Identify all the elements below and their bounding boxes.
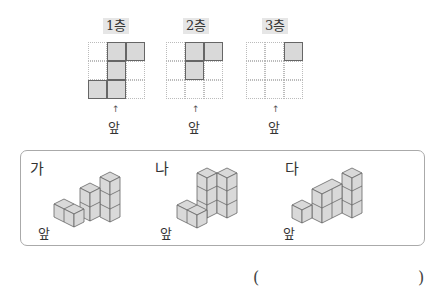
grid-cell xyxy=(88,61,107,80)
grid-cell xyxy=(88,42,107,61)
layer-title-2: 2층 xyxy=(183,18,209,34)
layer-title-1: 1층 xyxy=(103,18,129,34)
filled-cell xyxy=(107,80,126,99)
answer-close-paren: ) xyxy=(418,268,424,287)
cube-stack-ga xyxy=(50,165,130,235)
answer-open-paren: ( xyxy=(253,268,259,287)
grid-cell xyxy=(246,42,265,61)
grid-cell xyxy=(126,80,145,99)
grid-cell xyxy=(204,80,223,99)
front-label: 앞 xyxy=(108,117,120,136)
grid-cell xyxy=(246,61,265,80)
grid-cell xyxy=(265,42,284,61)
grid-cell xyxy=(265,61,284,80)
layer-grid-1 xyxy=(88,42,145,99)
arrow-up-icon: ↑ xyxy=(192,104,200,114)
grid-cell xyxy=(284,61,303,80)
grid-cell xyxy=(185,80,204,99)
filled-cell xyxy=(126,42,145,61)
grid-cell xyxy=(204,61,223,80)
filled-cell xyxy=(185,61,204,80)
layer-title-3: 3층 xyxy=(262,18,288,34)
grid-cell xyxy=(246,80,265,99)
layer-grid-2 xyxy=(166,42,223,99)
front-label: 앞 xyxy=(160,223,172,242)
front-label: 앞 xyxy=(268,117,280,136)
cube-stack-da xyxy=(290,165,370,235)
filled-cell xyxy=(88,80,107,99)
front-label: 앞 xyxy=(188,117,200,136)
layer-grid-3 xyxy=(246,42,303,99)
filled-cell xyxy=(185,42,204,61)
grid-cell xyxy=(126,61,145,80)
filled-cell xyxy=(107,61,126,80)
front-label: 앞 xyxy=(38,223,50,242)
answer-field[interactable] xyxy=(265,268,415,288)
front-label: 앞 xyxy=(283,223,295,242)
figure-label-ga: 가 xyxy=(30,157,44,178)
grid-cell xyxy=(166,61,185,80)
filled-cell xyxy=(284,42,303,61)
figure-label-na: 나 xyxy=(155,157,169,178)
cube-stack-na xyxy=(175,165,255,235)
filled-cell xyxy=(107,42,126,61)
grid-cell xyxy=(166,42,185,61)
filled-cell xyxy=(204,42,223,61)
arrow-up-icon: ↑ xyxy=(112,104,120,114)
arrow-up-icon: ↑ xyxy=(272,104,280,114)
grid-cell xyxy=(265,80,284,99)
grid-cell xyxy=(284,80,303,99)
grid-cell xyxy=(166,80,185,99)
